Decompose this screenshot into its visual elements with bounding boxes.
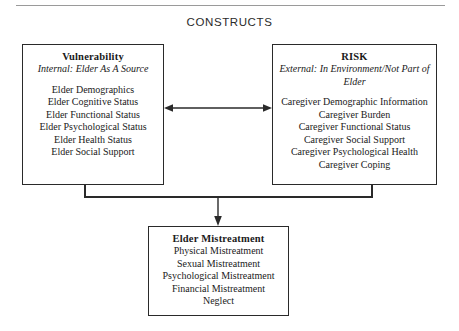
list-item: Elder Health Status bbox=[23, 134, 163, 147]
list-item: Elder Social Support bbox=[23, 146, 163, 159]
vulnerability-subtitle: Internal: Elder As A Source bbox=[23, 63, 163, 76]
list-item: Caregiver Coping bbox=[273, 159, 436, 172]
construct-box-vulnerability: Vulnerability Internal: Elder As A Sourc… bbox=[22, 44, 164, 185]
constructs-to-outcome-arrow-icon bbox=[211, 196, 225, 226]
top-divider-rule bbox=[16, 5, 445, 6]
list-item: Caregiver Social Support bbox=[273, 134, 436, 147]
list-item: Elder Demographics bbox=[23, 84, 163, 97]
outcome-title: Elder Mistreatment bbox=[149, 232, 288, 245]
list-item: Caregiver Functional Status bbox=[273, 121, 436, 134]
spacer bbox=[23, 76, 163, 84]
list-item: Neglect bbox=[149, 295, 288, 308]
list-item: Elder Psychological Status bbox=[23, 121, 163, 134]
list-item: Elder Cognitive Status bbox=[23, 96, 163, 109]
risk-subtitle: External: In Environment/Not Part of Eld… bbox=[273, 63, 436, 88]
list-item: Caregiver Burden bbox=[273, 109, 436, 122]
risk-item-list: Caregiver Demographic Information Caregi… bbox=[273, 96, 436, 172]
list-item: Psychological Mistreatment bbox=[149, 270, 288, 283]
list-item: Physical Mistreatment bbox=[149, 245, 288, 258]
construct-box-risk: RISK External: In Environment/Not Part o… bbox=[272, 44, 437, 185]
list-item: Elder Functional Status bbox=[23, 109, 163, 122]
outcome-box-elder-mistreatment: Elder Mistreatment Physical Mistreatment… bbox=[148, 226, 289, 316]
spacer bbox=[273, 88, 436, 96]
diagram-title: CONSTRUCTS bbox=[0, 16, 459, 28]
list-item: Sexual Mistreatment bbox=[149, 258, 288, 271]
list-item: Caregiver Demographic Information bbox=[273, 96, 436, 109]
risk-title: RISK bbox=[273, 50, 436, 63]
list-item: Financial Mistreatment bbox=[149, 283, 288, 296]
vulnerability-title: Vulnerability bbox=[23, 50, 163, 63]
outcome-item-list: Physical Mistreatment Sexual Mistreatmen… bbox=[149, 245, 288, 308]
list-item: Caregiver Psychological Health bbox=[273, 146, 436, 159]
diagram-canvas: CONSTRUCTS Vulnerability Internal: Elder… bbox=[0, 0, 459, 331]
connector-bus-line bbox=[84, 196, 373, 198]
vulnerability-item-list: Elder Demographics Elder Cognitive Statu… bbox=[23, 84, 163, 160]
vulnerability-risk-bidirectional-arrow-icon bbox=[164, 101, 272, 115]
